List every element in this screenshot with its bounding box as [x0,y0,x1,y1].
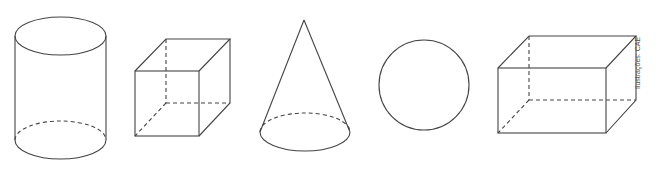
credit-text: Ilustrações: CAE [634,37,641,89]
cone [260,20,350,151]
cylinder [15,17,106,159]
cube [135,39,230,136]
geometric-solids-figure [0,0,659,172]
rectangular-prism [498,36,636,133]
illustration-credit: Ilustrações: CAE [637,63,659,70]
sphere [379,40,469,130]
